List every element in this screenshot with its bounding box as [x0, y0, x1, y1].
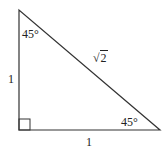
triangle-outline	[19, 10, 160, 130]
triangle-figure	[0, 0, 165, 152]
radicand: 2	[100, 50, 108, 65]
right-angle-marker	[19, 119, 30, 130]
leg-vertical-label: 1	[8, 73, 14, 85]
hypotenuse-label: √2	[93, 52, 108, 64]
angle-top-label: 45°	[22, 28, 39, 40]
angle-bottom-right-label: 45°	[121, 116, 138, 128]
radical-sign: √	[93, 51, 100, 65]
leg-horizontal-label: 1	[86, 136, 92, 148]
triangle-diagram: 45° 45° 1 1 √2	[0, 0, 165, 152]
